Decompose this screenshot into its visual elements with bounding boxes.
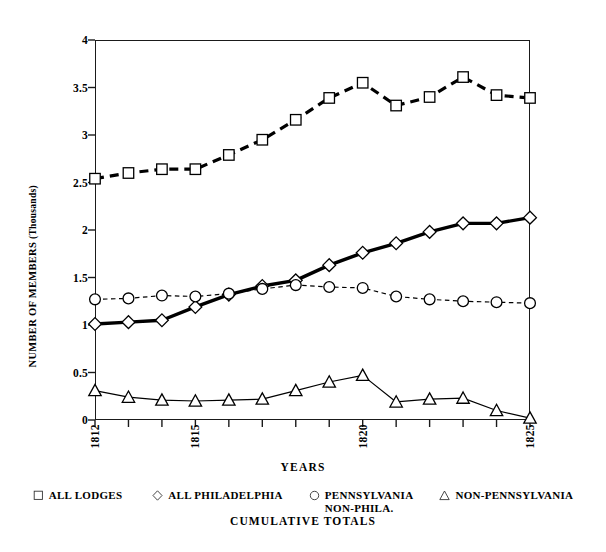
y-tick-label: 4 (82, 34, 88, 46)
y-tick-label: 2 (82, 224, 88, 236)
diamond-marker-icon (152, 490, 163, 501)
legend-item-label: ALL PHILADELPHIA (168, 489, 283, 502)
y-axis-title-main: NUMBER OF MEMBERS (27, 242, 38, 367)
y-tick-label: 0.5 (73, 367, 88, 379)
y-axis-title-sub: (Thousands) (28, 185, 38, 239)
circle-marker-icon (309, 490, 320, 501)
plot-area (95, 40, 530, 420)
legend-row: ALL LODGESALL PHILADELPHIAPENNSYLVANIA N… (0, 489, 606, 514)
y-tick-label: 1 (82, 319, 88, 331)
y-tick-label: 3 (82, 129, 88, 141)
square-marker-icon (33, 490, 44, 501)
x-tick-label: 1820 (357, 424, 369, 449)
y-tick-label: 2.5 (73, 177, 88, 189)
legend-item[interactable]: PENNSYLVANIA NON-PHILA. (309, 489, 414, 514)
legend-item-label: NON-PENNSYLVANIA (455, 489, 573, 502)
triangle-marker-icon (439, 490, 450, 501)
y-tick-label: 3.5 (73, 82, 88, 94)
chart-legend: ALL LODGESALL PHILADELPHIAPENNSYLVANIA N… (0, 489, 606, 527)
legend-footer: CUMULATIVE TOTALS (0, 515, 606, 527)
x-axis-title: YEARS (0, 461, 606, 473)
x-tick-label: 1825 (524, 424, 536, 449)
legend-item-label: ALL LODGES (49, 489, 123, 502)
legend-item[interactable]: ALL LODGES (33, 489, 123, 502)
y-tick-label: 0 (82, 414, 88, 426)
y-tick-label: 1.5 (73, 272, 88, 284)
legend-item[interactable]: ALL PHILADELPHIA (152, 489, 283, 502)
y-axis-tick-labels: 00.511.522.533.54 (58, 40, 88, 420)
chart-figure: NUMBER OF MEMBERS (Thousands) 00.511.522… (0, 0, 606, 552)
x-tick-label: 1812 (89, 424, 101, 449)
legend-item[interactable]: NON-PENNSYLVANIA (439, 489, 573, 502)
x-tick-label: 1815 (189, 424, 201, 449)
y-axis-title: NUMBER OF MEMBERS (Thousands) (16, 185, 50, 370)
legend-item-label: PENNSYLVANIA NON-PHILA. (325, 489, 414, 514)
